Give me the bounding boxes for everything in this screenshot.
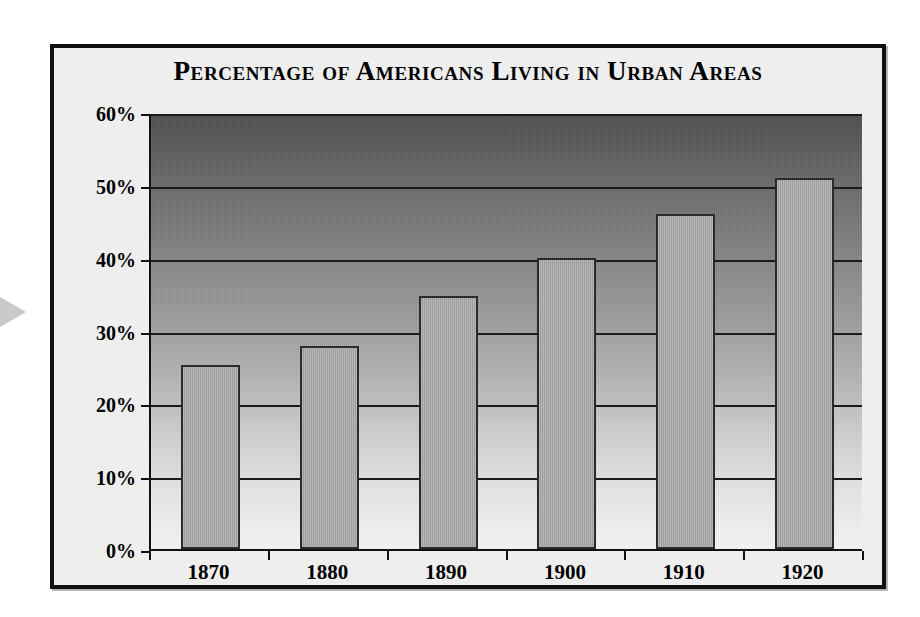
y-axis-tick-50 [141,187,149,189]
y-axis-tick-60 [141,114,149,116]
x-axis-tick-1900 [506,551,508,560]
chart-canvas: Percentage of Americans Living in Urban … [54,48,882,585]
y-axis-tick-20 [141,405,149,407]
x-axis-tick-end [862,551,864,560]
x-axis-label-1920: 1920 [748,560,858,585]
bar-1910[interactable] [656,214,715,549]
x-axis-tick-1870 [149,551,151,560]
y-axis-tick-30 [141,333,149,335]
x-axis-tick-1910 [624,551,626,560]
x-axis-tick-1890 [387,551,389,560]
chart-figure-frame: Percentage of Americans Living in Urban … [50,44,886,589]
gridline-60 [151,114,862,116]
play-triangle-icon [0,297,26,327]
y-axis-tick-10 [141,478,149,480]
y-axis-label-60: 60% [58,103,136,126]
gridline-40 [151,260,862,262]
bar-1890[interactable] [419,296,478,549]
y-axis-label-50: 50% [58,175,136,198]
gridline-30 [151,333,862,335]
chart-title: Percentage of Americans Living in Urban … [54,56,882,87]
x-axis-label-1870: 1870 [153,560,263,585]
plot-texture [151,114,862,549]
gridline-50 [151,187,862,189]
y-axis-label-30: 30% [58,321,136,344]
x-axis-label-1900: 1900 [510,560,620,585]
bar-1920[interactable] [775,178,834,549]
y-axis-tick-0 [141,551,149,553]
y-axis-label-10: 10% [58,467,136,490]
gridline-20 [151,405,862,407]
x-axis-label-1910: 1910 [629,560,739,585]
gridline-10 [151,478,862,480]
x-axis-tick-1920 [743,551,745,560]
x-axis-label-1890: 1890 [391,560,501,585]
y-axis-tick-40 [141,260,149,262]
x-axis-label-1880: 1880 [272,560,382,585]
y-axis-label-0: 0% [58,540,136,563]
y-axis-label-20: 20% [58,394,136,417]
bar-1880[interactable] [300,346,359,549]
bar-1900[interactable] [537,258,596,549]
y-axis-label-40: 40% [58,248,136,271]
x-axis-tick-1880 [268,551,270,560]
bar-1870[interactable] [181,365,240,549]
plot-area [149,114,862,551]
